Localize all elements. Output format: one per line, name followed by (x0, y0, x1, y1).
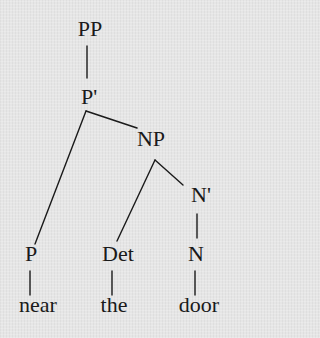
edge-pbar-p (35, 111, 86, 244)
edge-pbar-np (86, 111, 137, 128)
node-np: NP (137, 128, 165, 150)
syntax-tree: PP P' NP N' P Det N near the door (0, 0, 244, 338)
word-the: the (101, 294, 128, 316)
edge-np-nbar (155, 160, 183, 185)
tree-branches (0, 0, 244, 338)
edge-np-det (117, 160, 155, 241)
node-det: Det (102, 243, 134, 265)
node-pp: PP (78, 18, 102, 40)
node-p: P (25, 243, 37, 265)
word-near: near (19, 294, 57, 316)
node-p-bar: P' (81, 86, 97, 108)
node-n: N (188, 243, 204, 265)
node-n-bar: N' (191, 184, 211, 206)
word-door: door (179, 294, 219, 316)
